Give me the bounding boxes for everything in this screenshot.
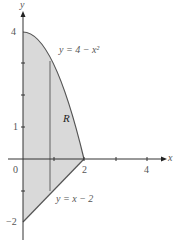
- x-tick-label-4: 4: [144, 165, 149, 175]
- y-axis-arrow-icon: [21, 11, 26, 17]
- x-tick-label-0: 0: [13, 165, 18, 175]
- x-axis-arrow-icon: [161, 157, 167, 162]
- region-label: R: [63, 113, 70, 124]
- y-tick-label-1: 1: [13, 122, 18, 132]
- x-tick-label-2: 2: [82, 165, 87, 175]
- y-tick-label-4: 4: [11, 27, 16, 37]
- upper-curve-label: y = 4 − x²: [59, 45, 99, 55]
- diagram-canvas: [0, 0, 173, 240]
- y-axis-label: y: [20, 0, 24, 10]
- x-axis-label: x: [168, 153, 172, 163]
- lower-curve-label: y = x − 2: [56, 194, 93, 204]
- y-tick-label-neg2: −2: [6, 217, 17, 227]
